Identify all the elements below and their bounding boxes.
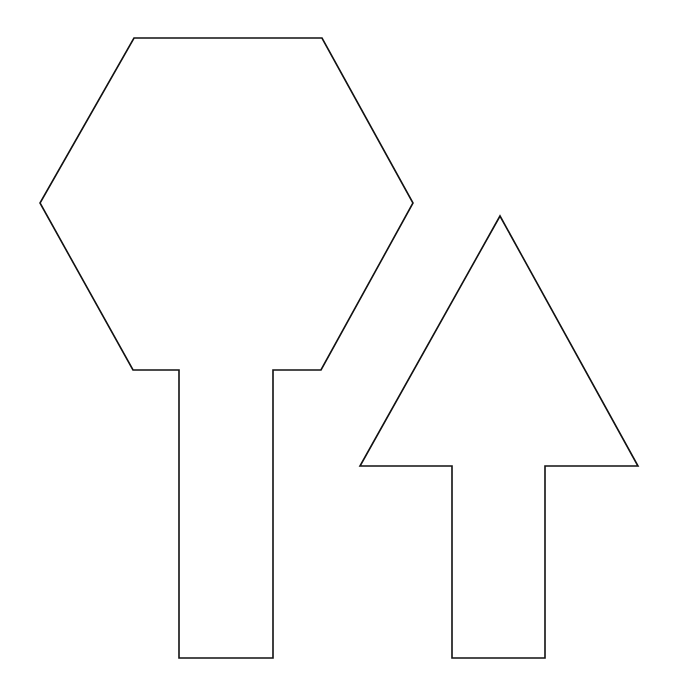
hexagon-on-stem-shape (40, 38, 413, 658)
up-arrow-shape (360, 216, 638, 658)
diagram-canvas (0, 0, 675, 700)
